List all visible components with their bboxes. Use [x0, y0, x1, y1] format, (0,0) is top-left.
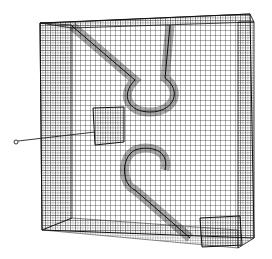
center-mesh-plate	[93, 107, 124, 145]
wireframe-figure	[0, 0, 272, 259]
mesh-right-face	[238, 22, 254, 248]
bottom-right-mesh-block	[200, 216, 242, 247]
probe-tip	[14, 140, 18, 144]
mesh-left-face	[40, 23, 72, 230]
